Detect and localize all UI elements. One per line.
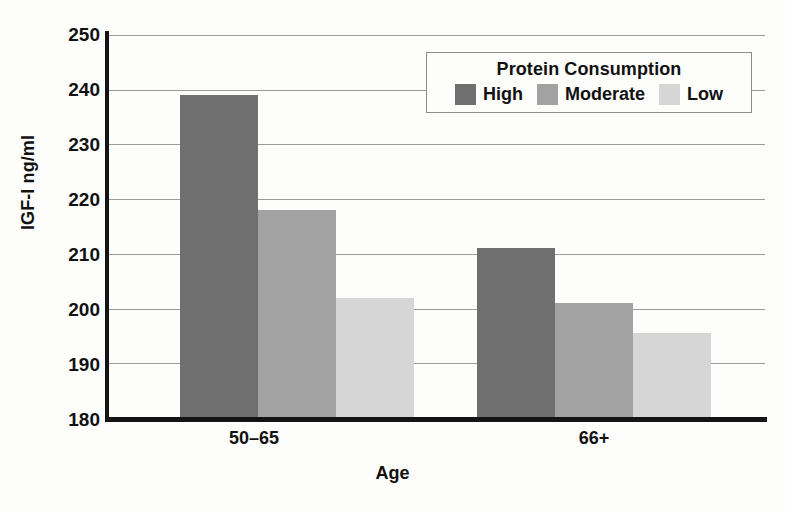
gridline — [108, 35, 765, 36]
y-tick-label: 230 — [48, 135, 100, 154]
y-tick-label: 240 — [48, 80, 100, 99]
y-tick-label: 180 — [48, 410, 100, 429]
legend-swatch-moderate-icon — [537, 84, 558, 105]
legend-swatch-high-icon — [455, 84, 476, 105]
legend-swatch-low-icon — [659, 84, 680, 105]
legend-entries: High Moderate Low — [435, 84, 743, 105]
bar-low-1[interactable] — [336, 298, 414, 418]
y-tick-label: 210 — [48, 245, 100, 264]
bar-chart-figure: IGF-I ng/ml 250 240 230 220 210 200 190 … — [0, 0, 785, 511]
legend-entry-low[interactable]: Low — [659, 84, 723, 105]
legend-entry-moderate[interactable]: Moderate — [537, 84, 645, 105]
bar-low-2[interactable] — [633, 333, 711, 418]
legend-label-high: High — [483, 84, 523, 105]
legend-label-moderate: Moderate — [565, 84, 645, 105]
bar-moderate-2[interactable] — [555, 303, 633, 418]
y-axis-tick-labels: 250 240 230 220 210 200 190 180 — [44, 0, 100, 511]
y-tick-label: 200 — [48, 300, 100, 319]
y-tick-label: 190 — [48, 355, 100, 374]
bar-high-2[interactable] — [477, 248, 555, 418]
x-tick-label-group-2: 66+ — [477, 428, 711, 449]
legend-title: Protein Consumption — [435, 59, 743, 80]
x-tick-label-group-1: 50–65 — [186, 428, 322, 449]
y-axis-title: IGF-I ng/ml — [18, 103, 39, 263]
bar-moderate-1[interactable] — [258, 210, 336, 418]
y-axis-line — [105, 31, 109, 422]
bar-high-1[interactable] — [180, 95, 258, 418]
y-tick-label: 220 — [48, 190, 100, 209]
legend-label-low: Low — [687, 84, 723, 105]
y-tick-label: 250 — [48, 25, 100, 44]
x-axis-title: Age — [0, 463, 785, 484]
x-axis-line — [105, 417, 767, 422]
legend: Protein Consumption High Moderate Low — [426, 52, 752, 113]
legend-entry-high[interactable]: High — [455, 84, 523, 105]
